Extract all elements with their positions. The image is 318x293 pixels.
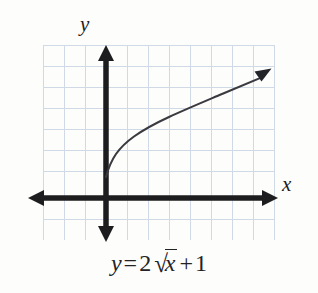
x-axis-left-arrowhead [28, 190, 44, 206]
graph-figure: y x y=2√x+1 [0, 0, 318, 293]
equation-caption: y=2√x+1 [0, 249, 318, 277]
y-axis-up-arrowhead [98, 45, 114, 61]
equation-plus-sign: + [178, 250, 196, 276]
x-axis-right-arrowhead [262, 190, 278, 206]
y-axis-down-arrowhead [98, 226, 114, 242]
grid-lines [43, 45, 275, 241]
equation-equals-sign: = [122, 250, 140, 276]
x-axis-label: x [282, 174, 291, 195]
equation-lhs-variable: y [111, 250, 122, 276]
x-axis [28, 190, 278, 206]
equation-coefficient: 2 [139, 250, 151, 276]
function-curve [106, 69, 272, 178]
y-axis [98, 45, 114, 242]
y-axis-label: y [80, 14, 89, 35]
equation-radical: √x [154, 249, 176, 277]
equation-constant: 1 [195, 250, 207, 276]
equation-radicand: x [165, 249, 177, 276]
